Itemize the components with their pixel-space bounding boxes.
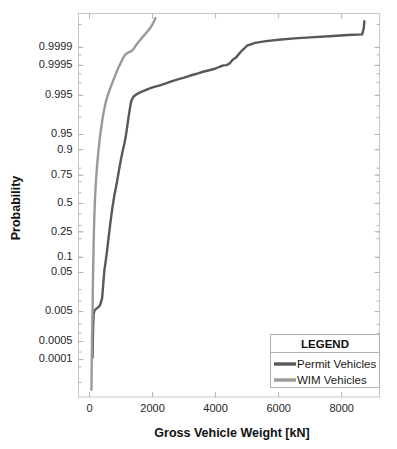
y-axis-major-ticks — [79, 47, 380, 359]
y-axis-minor-ticks — [79, 24, 380, 382]
y-tick-label: 0.05 — [51, 265, 72, 277]
x-tick-label: 4000 — [203, 402, 227, 414]
series-line-permit-vehicles — [93, 21, 365, 357]
y-tick-label: 0.9995 — [39, 58, 73, 70]
x-axis-tick-labels: 02000400060008000 — [86, 402, 353, 414]
y-tick-label: 0.9 — [57, 143, 72, 155]
y-tick-label: 0.5 — [57, 196, 72, 208]
y-tick-label: 0.0005 — [39, 334, 73, 346]
y-tick-label: 0.95 — [51, 127, 72, 139]
chart-figure: 0.99990.99950.9950.950.90.750.50.250.10.… — [0, 0, 397, 449]
y-tick-label: 0.75 — [51, 168, 72, 180]
x-axis-title: Gross Vehicle Weight [kN] — [154, 426, 309, 440]
x-tick-label: 0 — [86, 402, 92, 414]
legend-label-permit-vehicles: Permit Vehicles — [297, 358, 377, 370]
y-tick-label: 0.0001 — [39, 352, 73, 364]
x-tick-label: 8000 — [329, 402, 353, 414]
y-tick-label: 0.25 — [51, 225, 72, 237]
y-tick-label: 0.9999 — [39, 40, 73, 52]
y-axis-title: Probability — [9, 176, 23, 241]
y-tick-label: 0.995 — [45, 88, 73, 100]
legend-title: LEGEND — [301, 338, 349, 350]
y-axis-tick-labels: 0.99990.99950.9950.950.90.750.50.250.10.… — [39, 40, 73, 364]
x-tick-label: 2000 — [140, 402, 164, 414]
y-tick-label: 0.1 — [57, 250, 72, 262]
chart-legend: LEGEND Permit Vehicles WIM Vehicles — [271, 335, 380, 388]
probability-plot: 0.99990.99950.9950.950.90.750.50.250.10.… — [0, 0, 397, 449]
legend-label-wim-vehicles: WIM Vehicles — [297, 374, 367, 386]
series-line-wim-vehicles — [91, 18, 155, 390]
x-tick-label: 6000 — [266, 402, 290, 414]
y-tick-label: 0.005 — [45, 304, 73, 316]
